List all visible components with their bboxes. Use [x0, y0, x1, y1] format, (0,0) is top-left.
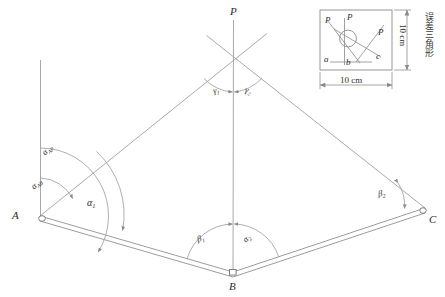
angle-label-beta-2-sub: 2: [382, 192, 386, 198]
point-label-b: B: [229, 281, 236, 292]
point-label-p: P: [230, 6, 237, 17]
angle-label-alpha-1-sub: 1: [92, 202, 95, 209]
baseline-bc-lower: [233, 213, 425, 277]
resection-diagram: A B C P αAP αAB α1 β1 α2 β2 γ1 γ2 P P P …: [0, 0, 445, 297]
station-marker-a: [39, 216, 46, 222]
baseline-ab-lower: [40, 221, 233, 277]
diagram-canvas: [0, 0, 445, 297]
arc-beta-1: [187, 224, 232, 259]
angle-label-alpha-1: α1: [87, 198, 95, 208]
angle-arc-at-c: [398, 183, 405, 209]
inset-foot-label-a: a: [324, 55, 329, 64]
inset-foot-label-b: b: [346, 58, 351, 67]
station-markers: [39, 208, 427, 275]
inset-foot-label-c: c: [376, 52, 380, 61]
station-marker-c: [420, 208, 426, 214]
point-label-a: A: [12, 210, 19, 221]
inset-ray-label-p-left: P: [325, 16, 331, 25]
baseline-ab-upper: [40, 216, 233, 272]
arc-alpha-ap: [41, 148, 109, 252]
inset-ray-label-p-right: P: [378, 28, 384, 37]
baseline-band: [40, 208, 425, 277]
ray-b-to-p: [233, 20, 234, 272]
point-label-c: C: [429, 214, 436, 225]
arc-alpha-1: [97, 152, 125, 231]
arc-alpha-2: [234, 224, 278, 257]
arc-alpha-ab: [41, 178, 73, 199]
baseline-bc-upper: [233, 208, 425, 272]
inset-ray-label-p-top: P: [347, 13, 353, 22]
station-marker-b: [230, 270, 237, 276]
arc-beta-2: [398, 183, 405, 209]
inset-height-dimension-label: 10 cm: [398, 24, 407, 46]
angle-label-beta-2: β2: [377, 189, 385, 198]
inset-title-error-triangle: 误差三角形: [423, 12, 436, 57]
inset-width-dimension-label: 10 cm: [340, 76, 362, 85]
